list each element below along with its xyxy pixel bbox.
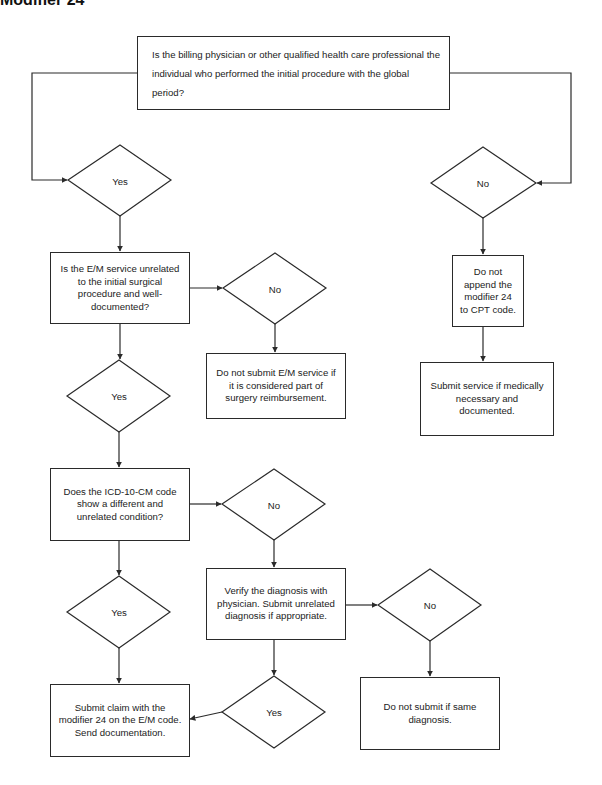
- diamond-label-verify-no: No: [424, 600, 436, 611]
- action-verify-diagnosis-text: Verify the diagnosis with physician. Sub…: [213, 585, 339, 623]
- result-same-diagnosis-text: Do not submit if same diagnosis.: [367, 701, 493, 726]
- result-submit-service-text: Submit service if medically necessary an…: [427, 380, 547, 418]
- question-em-unrelated: Is the E/M service unrelated to the init…: [50, 252, 190, 324]
- result-submit-service: Submit service if medically necessary an…: [420, 362, 554, 436]
- diamond-label-q3-no: No: [268, 500, 280, 511]
- question-em-unrelated-text: Is the E/M service unrelated to the init…: [57, 263, 183, 313]
- diamond-label-q1-no: No: [477, 178, 489, 189]
- result-submit-claim-text: Submit claim with the modifier 24 on the…: [57, 702, 183, 740]
- question-billing-physician: Is the billing physician or other qualif…: [137, 36, 450, 110]
- diamond-label-q2-no: No: [269, 284, 281, 295]
- diamond-label-verify-yes: Yes: [266, 707, 282, 718]
- question-icd-code-text: Does the ICD-10-CM code show a different…: [57, 486, 183, 524]
- action-verify-diagnosis: Verify the diagnosis with physician. Sub…: [206, 568, 346, 640]
- diamond-label-q3-yes: Yes: [111, 607, 127, 618]
- diamond-label-q1-yes: Yes: [112, 176, 128, 187]
- result-same-diagnosis: Do not submit if same diagnosis.: [360, 677, 500, 750]
- result-submit-claim: Submit claim with the modifier 24 on the…: [50, 684, 190, 757]
- result-do-not-submit-em-text: Do not submit E/M service if it is consi…: [213, 367, 339, 405]
- diamond-label-q2-yes: Yes: [111, 391, 127, 402]
- result-do-not-append-modifier-text: Do not append the modifier 24 to CPT cod…: [459, 266, 517, 316]
- question-billing-physician-text: Is the billing physician or other qualif…: [152, 45, 442, 102]
- question-icd-code: Does the ICD-10-CM code show a different…: [50, 468, 190, 541]
- result-do-not-append-modifier: Do not append the modifier 24 to CPT cod…: [452, 255, 524, 327]
- result-do-not-submit-em: Do not submit E/M service if it is consi…: [206, 353, 346, 419]
